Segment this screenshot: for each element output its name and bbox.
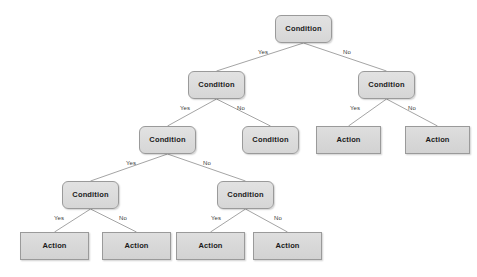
- decision-tree-diagram: ConditionConditionConditionConditionCond…: [0, 0, 477, 277]
- node-label: Condition: [368, 81, 404, 89]
- node-label: Action: [198, 242, 222, 250]
- edge-n2-n4: [168, 99, 217, 126]
- edge-label-n4-n8: Yes: [126, 160, 136, 166]
- node-action-n13[interactable]: Action: [253, 232, 322, 260]
- node-action-n7[interactable]: Action: [405, 126, 470, 154]
- edge-label-n4-n9: No: [203, 160, 211, 166]
- edge-label-n2-n5: No: [237, 105, 245, 111]
- edge-n8-n11: [91, 209, 137, 232]
- edge-n4-n9: [168, 154, 246, 181]
- node-action-n12[interactable]: Action: [176, 232, 245, 260]
- edge-n1-n2: [217, 43, 304, 71]
- node-condition-n1[interactable]: Condition: [275, 15, 332, 43]
- node-label: Action: [42, 242, 66, 250]
- edge-label-n1-n2: Yes: [258, 49, 268, 55]
- node-label: Condition: [72, 191, 108, 199]
- node-condition-n8[interactable]: Condition: [62, 181, 119, 209]
- node-label: Condition: [198, 81, 234, 89]
- node-action-n10[interactable]: Action: [20, 232, 89, 260]
- node-label: Action: [124, 242, 148, 250]
- node-label: Action: [336, 136, 360, 144]
- edge-n4-n8: [91, 154, 168, 181]
- node-condition-n3[interactable]: Condition: [358, 71, 415, 99]
- edge-n1-n3: [304, 43, 387, 71]
- edge-label-n3-n7: No: [408, 105, 416, 111]
- node-label: Condition: [227, 191, 263, 199]
- node-condition-n9[interactable]: Condition: [217, 181, 274, 209]
- edge-label-n8-n10: Yes: [54, 215, 64, 221]
- edge-n3-n7: [387, 99, 438, 126]
- node-condition-n5[interactable]: Condition: [242, 126, 299, 154]
- node-action-n11[interactable]: Action: [102, 232, 171, 260]
- node-label: Action: [275, 242, 299, 250]
- edge-n3-n6: [349, 99, 387, 126]
- node-condition-n2[interactable]: Condition: [188, 71, 245, 99]
- node-label: Condition: [252, 136, 288, 144]
- edge-label-n8-n11: No: [119, 215, 127, 221]
- edge-label-n9-n13: No: [274, 215, 282, 221]
- node-label: Condition: [285, 25, 321, 33]
- edge-n2-n5: [217, 99, 271, 126]
- edge-label-n9-n12: Yes: [211, 215, 221, 221]
- edge-label-n1-n3: No: [343, 49, 351, 55]
- node-label: Condition: [149, 136, 185, 144]
- node-label: Action: [425, 136, 449, 144]
- edge-label-n2-n4: Yes: [180, 105, 190, 111]
- node-condition-n4[interactable]: Condition: [139, 126, 196, 154]
- edge-label-n3-n6: Yes: [350, 105, 360, 111]
- node-action-n6[interactable]: Action: [316, 126, 381, 154]
